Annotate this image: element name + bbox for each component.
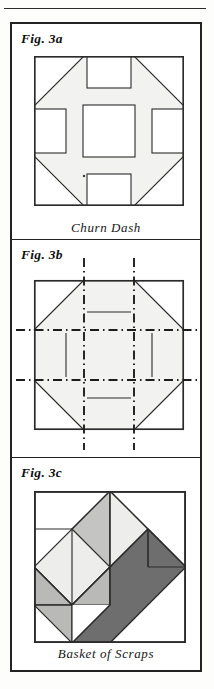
edge-rect-bottom bbox=[87, 174, 131, 206]
basket-of-scraps-svg bbox=[34, 491, 186, 643]
churn-dash-construction-block bbox=[16, 258, 200, 450]
edge-rect-top bbox=[87, 56, 131, 88]
panel-fig-3c: Fig. 3c bbox=[12, 457, 200, 670]
page-canvas: Fig. 3a bbox=[0, 0, 214, 689]
fig-3c-caption: Basket of Scraps bbox=[12, 646, 204, 662]
churn-dash-svg bbox=[34, 56, 184, 206]
basket-of-scraps-block bbox=[34, 491, 186, 643]
top-horizontal-rule bbox=[4, 8, 206, 9]
fig-3c-label: Fig. 3c bbox=[21, 465, 62, 481]
churn-dash-construction-svg bbox=[16, 258, 200, 450]
edge-rect-left bbox=[34, 109, 66, 153]
fig-3a-caption: Churn Dash bbox=[12, 220, 200, 236]
edge-rect-right bbox=[152, 109, 184, 153]
figure-frame: Fig. 3a bbox=[10, 22, 202, 672]
fig-3a-label: Fig. 3a bbox=[21, 31, 63, 47]
churn-dash-block bbox=[34, 56, 184, 206]
center-square bbox=[83, 105, 135, 157]
panel-fig-3a: Fig. 3a bbox=[12, 24, 200, 239]
panel-fig-3b: Fig. 3b bbox=[12, 239, 200, 457]
ink-dot-artifact bbox=[83, 175, 85, 177]
basket-top-right-white bbox=[148, 491, 186, 529]
